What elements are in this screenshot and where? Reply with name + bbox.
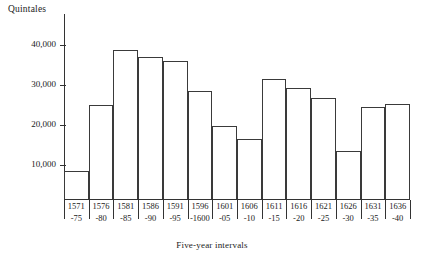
x-category-label-bottom: -95	[163, 213, 188, 223]
bar	[64, 171, 89, 199]
x-category-label-top: 1631	[364, 201, 381, 211]
bar	[163, 61, 188, 199]
x-category-label: 1586-90	[138, 201, 163, 223]
x-category-label-top: 1601	[216, 201, 233, 211]
x-category-label-bottom: -35	[361, 213, 386, 223]
x-category-label: 1601-05	[212, 201, 237, 223]
bar	[237, 139, 262, 199]
x-category-label-top: 1606	[241, 201, 258, 211]
bar	[311, 98, 336, 199]
bar	[188, 91, 213, 199]
x-category-label-top: 1576	[93, 201, 110, 211]
x-category-label: 1591-95	[163, 201, 188, 223]
x-category-label: 1581-85	[113, 201, 138, 223]
x-category-label-bottom: -10	[237, 213, 262, 223]
x-category-label-top: 1571	[68, 201, 85, 211]
x-category-label-bottom: -25	[311, 213, 336, 223]
x-category-label-bottom: -20	[286, 213, 311, 223]
bar	[113, 50, 138, 199]
bar	[89, 105, 114, 199]
x-category-label: 1576-80	[89, 201, 114, 223]
x-category-label: 1626-30	[336, 201, 361, 223]
x-category-label-top: 1611	[266, 201, 283, 211]
x-category-label: 1596-1600	[188, 201, 213, 223]
x-category-label-bottom: -30	[336, 213, 361, 223]
x-category-label: 1616-20	[286, 201, 311, 223]
x-category-label: 1571-75	[64, 201, 89, 223]
x-category-label-bottom: -1600	[188, 213, 213, 223]
x-category-label-top: 1591	[167, 201, 184, 211]
y-tick-label: 40,000	[4, 39, 56, 49]
y-tick-mark	[60, 125, 66, 126]
bar	[286, 88, 311, 199]
x-category-label-bottom: -90	[138, 213, 163, 223]
y-tick-mark	[60, 165, 66, 166]
x-category-label-bottom: -75	[64, 213, 89, 223]
y-tick-mark	[60, 45, 66, 46]
bar	[385, 104, 410, 199]
y-tick-label: 30,000	[4, 79, 56, 89]
x-category-label-bottom: -40	[385, 213, 410, 223]
x-category-label-top: 1626	[340, 201, 357, 211]
y-tick-label: 10,000	[4, 159, 56, 169]
x-category-label-top: 1636	[389, 201, 406, 211]
x-category-label: 1621-25	[311, 201, 336, 223]
x-category-label-top: 1581	[117, 201, 134, 211]
x-category-label-bottom: -85	[113, 213, 138, 223]
x-axis-title: Five-year intervals	[0, 240, 424, 250]
y-tick-mark	[60, 85, 66, 86]
histogram-chart: Quintales 10,00020,00030,00040,000 1571-…	[0, 0, 424, 263]
x-category-label-bottom: -80	[89, 213, 114, 223]
x-category-label-top: 1596	[191, 201, 208, 211]
x-category-label-bottom: -05	[212, 213, 237, 223]
x-category-label-top: 1621	[315, 201, 332, 211]
bar	[361, 107, 386, 199]
x-category-label-top: 1616	[290, 201, 307, 211]
bar	[336, 151, 361, 199]
x-category-label: 1611-15	[262, 201, 287, 223]
bar	[212, 126, 237, 199]
x-category-separator	[410, 200, 411, 219]
y-axis-title: Quintales	[8, 4, 46, 14]
x-category-label: 1631-35	[361, 201, 386, 223]
x-category-label: 1606-10	[237, 201, 262, 223]
y-tick-label: 20,000	[4, 119, 56, 129]
bar	[138, 57, 163, 199]
x-category-label-top: 1586	[142, 201, 159, 211]
bar	[262, 79, 287, 199]
x-category-label-bottom: -15	[262, 213, 287, 223]
x-category-label: 1636-40	[385, 201, 410, 223]
